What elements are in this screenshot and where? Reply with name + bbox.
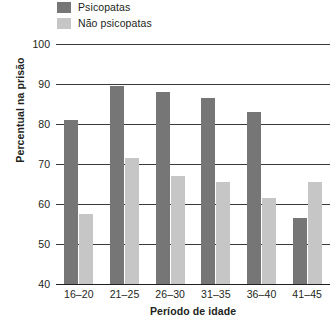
legend-item-nao-psicopatas: Não psicopatas [57,17,152,30]
bar-group [147,44,193,284]
y-axis-tick-label: 60 [10,199,50,209]
bar-group [239,44,285,284]
legend-label-nao-psicopatas: Não psicopatas [78,18,152,29]
bar [216,182,230,284]
legend-swatch-psicopatas [57,2,71,13]
x-axis-tick-label: 41–45 [284,288,330,300]
x-axis-tick-label: 21–25 [102,288,148,300]
bar-group [284,44,330,284]
bar [262,198,276,284]
bar-groups [56,44,330,284]
x-axis-line [56,284,330,286]
bar [308,182,322,284]
bar [79,214,93,284]
y-axis-title: Percentual na prisão [14,30,26,190]
legend-label-psicopatas: Psicopatas [78,2,130,13]
psychopathy-prison-bar-chart: Psicopatas Não psicopatas 10090807060504… [0,0,336,329]
bar [171,176,185,284]
bar-group [102,44,148,284]
chart-legend: Psicopatas Não psicopatas [57,1,152,30]
x-axis-tick-label: 16–20 [56,288,102,300]
x-axis-tick-labels: 16–2021–2526–3031–3536–4041–45 [56,288,330,300]
bar [125,158,139,284]
y-axis-tick-label: 40 [10,279,50,289]
bar-group [56,44,102,284]
legend-item-psicopatas: Psicopatas [57,1,152,14]
bar [293,218,307,284]
bar [247,112,261,284]
x-axis-tick-label: 26–30 [147,288,193,300]
bar [110,86,124,284]
bar-group [193,44,239,284]
x-axis-tick-label: 36–40 [239,288,285,300]
bar [64,120,78,284]
bar [156,92,170,284]
x-axis-title: Período de idade [56,305,330,317]
bar [201,98,215,284]
x-axis-tick-label: 31–35 [193,288,239,300]
plot-area [56,44,330,284]
legend-swatch-nao-psicopatas [57,18,71,29]
y-axis-tick-label: 50 [10,239,50,249]
